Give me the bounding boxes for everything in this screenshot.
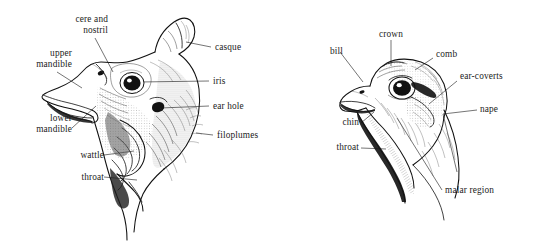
- label-crown: crown: [367, 29, 415, 40]
- label-filoplumes: filoplumes: [217, 130, 258, 141]
- label-bill: bill: [285, 46, 343, 57]
- label-cere-and-nostril-text: cere and nostril: [76, 14, 108, 35]
- label-cere-and-nostril: cere and nostril: [40, 14, 108, 35]
- label-crown-text: crown: [379, 29, 403, 39]
- label-ear-hole-text: ear hole: [213, 101, 244, 111]
- label-throat: throat: [301, 142, 359, 153]
- left-diagram-panel: cere and nostril upper mandible lower ma…: [0, 0, 271, 242]
- label-nape-text: nape: [480, 104, 498, 114]
- label-wattle: wattle: [38, 150, 104, 161]
- label-wattle-text: wattle: [80, 150, 104, 160]
- label-comb: comb: [436, 49, 457, 60]
- label-filoplumes-text: filoplumes: [217, 130, 258, 140]
- label-chin-text: chin: [342, 117, 359, 127]
- label-lower-mandible: lower mandible: [4, 113, 72, 134]
- label-ear-coverts: ear-coverts: [460, 71, 503, 82]
- label-iris-text: iris: [213, 76, 225, 86]
- right-diagram-panel: bill crown comb ear-coverts nape chin th…: [271, 0, 542, 242]
- label-lower-mandible-text: lower mandible: [36, 113, 72, 134]
- label-chin: chin: [315, 117, 359, 128]
- label-iris: iris: [213, 76, 225, 87]
- anatomy-figure: cere and nostril upper mandible lower ma…: [0, 0, 542, 242]
- label-upper-mandible: upper mandible: [6, 48, 72, 69]
- label-upper-mandible-text: upper mandible: [36, 48, 72, 69]
- label-malar-region: malar region: [445, 185, 494, 196]
- label-malar-region-text: malar region: [445, 185, 494, 195]
- label-bill-text: bill: [330, 46, 343, 56]
- label-throat-text: throat: [81, 172, 104, 182]
- label-ear-hole: ear hole: [213, 101, 244, 112]
- label-comb-text: comb: [436, 49, 457, 59]
- label-casque-text: casque: [215, 42, 241, 52]
- label-nape: nape: [480, 104, 498, 115]
- nape-hatching: [422, 124, 455, 176]
- label-throat-text: throat: [336, 142, 359, 152]
- label-casque: casque: [215, 42, 241, 53]
- label-ear-coverts-text: ear-coverts: [460, 71, 503, 81]
- label-throat: throat: [38, 172, 104, 183]
